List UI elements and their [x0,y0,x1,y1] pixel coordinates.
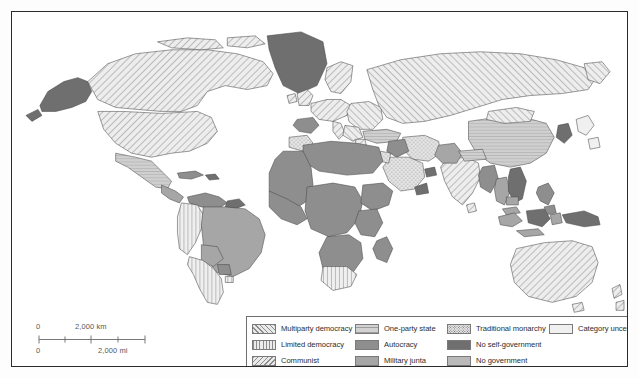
legend-swatch-traditional-monarchy [447,324,471,334]
map-figure: 0 2,000 km 0 2,000 mi Multiparty democra… [0,0,639,378]
legend-label-limited-democracy: Limited democracy [281,340,344,349]
legend-item-no-self-government[interactable]: No self-government [447,337,551,352]
scale-bar: 0 2,000 km 0 2,000 mi [36,315,166,365]
legend-swatch-communist [252,356,276,366]
legend-item-one-party-state[interactable]: One-party state [355,321,449,336]
legend-item-category-uncertain[interactable]: Category uncertain [549,321,628,336]
legend-item-military-junta[interactable]: Military junta [355,353,449,367]
legend-swatch-category-uncertain [549,324,573,334]
legend-label-multiparty-democracy: Multiparty democracy [281,324,352,333]
legend-swatch-limited-democracy [252,340,276,350]
legend-swatch-one-party-state [355,324,379,334]
legend-column-4: Category uncertain [549,321,628,337]
scale-mi-zero-label: 0 [36,346,40,355]
scale-mi-max-label: 2,000 mi [98,346,128,355]
legend-label-no-government: No government [476,356,527,365]
legend-label-one-party-state: One-party state [384,324,436,333]
legend-label-military-junta: Military junta [384,356,426,365]
legend-swatch-multiparty-democracy [252,324,276,334]
legend-item-no-government[interactable]: No government [447,353,551,367]
legend-label-autocracy: Autocracy [384,340,417,349]
legend-label-traditional-monarchy: Traditional monarchy [476,324,546,333]
legend-label-category-uncertain: Category uncertain [578,324,628,333]
legend-column-3: Traditional monarchy No self-government … [447,321,551,367]
scale-km-zero-label: 0 [36,322,40,331]
legend-swatch-no-self-government [447,340,471,350]
legend-item-communist[interactable]: Communist [252,353,356,367]
scale-km-max-label: 2,000 km [75,322,107,331]
legend-swatch-autocracy [355,340,379,350]
legend-swatch-no-government [447,356,471,366]
legend-item-autocracy[interactable]: Autocracy [355,337,449,352]
map-legend: Multiparty democracy Limited democracy C… [246,316,628,367]
legend-item-limited-democracy[interactable]: Limited democracy [252,337,356,352]
legend-label-no-self-government: No self-government [476,340,541,349]
legend-swatch-military-junta [355,356,379,366]
map-frame: 0 2,000 km 0 2,000 mi Multiparty democra… [11,11,628,367]
scale-bar-axis [38,335,146,344]
world-map[interactable] [12,12,627,366]
legend-column-2: One-party state Autocracy Military junta [355,321,449,367]
legend-item-multiparty-democracy[interactable]: Multiparty democracy [252,321,356,336]
legend-column-1: Multiparty democracy Limited democracy C… [252,321,356,367]
legend-item-traditional-monarchy[interactable]: Traditional monarchy [447,321,551,336]
legend-label-communist: Communist [281,356,319,365]
